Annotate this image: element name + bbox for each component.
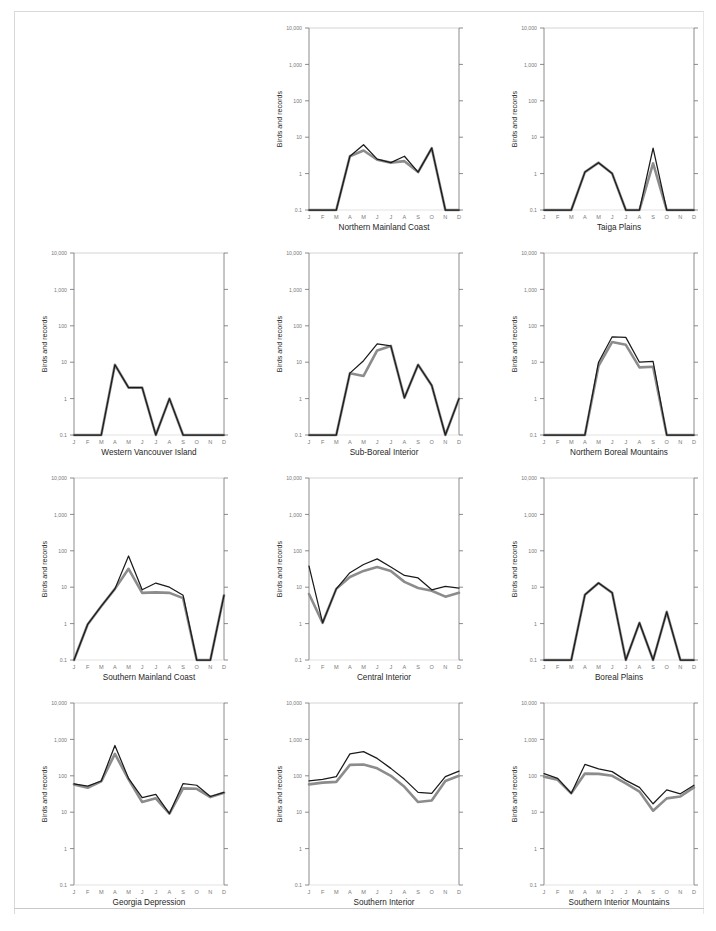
x-tick-label: F: [86, 889, 90, 895]
x-tick-label: O: [195, 664, 200, 670]
x-tick-label: J: [611, 214, 614, 220]
x-tick-label: N: [443, 439, 447, 445]
y-tick-label: 10,000: [521, 700, 537, 706]
panel-title: Sub-Boreal Interior: [350, 448, 419, 457]
x-tick-label: J: [543, 214, 546, 220]
x-tick-label: O: [195, 889, 200, 895]
series-line-records: [309, 145, 459, 210]
y-axis-label: Birds and records: [275, 315, 284, 372]
x-tick-label: F: [556, 439, 560, 445]
panel-southern-interior: 10,0001,0001001010.1JFMAMJJASONDBirds an…: [247, 689, 482, 914]
y-axis-label: Birds and records: [40, 765, 49, 822]
x-tick-label: J: [611, 889, 614, 895]
x-tick-label: A: [583, 664, 587, 670]
y-tick-label: 0.1: [530, 207, 537, 213]
y-tick-label: 0.1: [295, 432, 302, 438]
y-tick-label: 10: [61, 809, 67, 815]
x-tick-label: D: [222, 889, 226, 895]
chart-northern-boreal-mountains: 10,0001,0001001010.1JFMAMJJASONDBirds an…: [482, 239, 716, 464]
x-tick-label: J: [141, 664, 144, 670]
x-tick-label: A: [638, 889, 642, 895]
chart-taiga-plains: 10,0001,0001001010.1JFMAMJJASONDBirds an…: [482, 14, 716, 239]
x-tick-label: M: [334, 664, 339, 670]
y-tick-label: 0.1: [530, 432, 537, 438]
chart-sub-boreal-interior: 10,0001,0001001010.1JFMAMJJASONDBirds an…: [247, 239, 482, 464]
series-line-birds: [544, 163, 694, 210]
x-tick-label: D: [692, 664, 696, 670]
y-tick-label: 10: [61, 584, 67, 590]
x-tick-label: J: [154, 889, 157, 895]
x-tick-label: M: [126, 439, 131, 445]
x-tick-label: M: [569, 664, 574, 670]
y-tick-label: 1,000: [524, 512, 537, 518]
y-tick-label: 1,000: [289, 287, 302, 293]
x-tick-label: D: [222, 439, 226, 445]
x-tick-label: M: [361, 439, 366, 445]
chart-georgia-depression: 10,0001,0001001010.1JFMAMJJASONDBirds an…: [12, 689, 247, 914]
x-tick-label: N: [678, 889, 682, 895]
x-tick-label: J: [611, 439, 614, 445]
x-tick-label: A: [113, 664, 117, 670]
panel-northern-mainland-coast: 10,0001,0001001010.1JFMAMJJASONDBirds an…: [247, 14, 482, 239]
x-tick-label: O: [665, 889, 670, 895]
y-tick-label: 10,000: [286, 250, 302, 256]
x-tick-label: J: [308, 214, 311, 220]
y-tick-label: 10,000: [286, 25, 302, 31]
y-tick-label: 1,000: [54, 737, 67, 743]
x-tick-label: D: [457, 664, 461, 670]
x-tick-label: D: [457, 439, 461, 445]
y-tick-label: 1: [299, 171, 302, 177]
y-tick-label: 10,000: [521, 250, 537, 256]
y-tick-label: 10,000: [286, 475, 302, 481]
chart-southern-interior-mountains: 10,0001,0001001010.1JFMAMJJASONDBirds an…: [482, 689, 716, 914]
x-tick-label: M: [569, 889, 574, 895]
y-axis-label: Birds and records: [510, 315, 519, 372]
x-tick-label: A: [348, 664, 352, 670]
x-tick-label: J: [611, 664, 614, 670]
x-tick-label: J: [624, 664, 627, 670]
x-tick-label: A: [403, 214, 407, 220]
x-tick-label: A: [348, 439, 352, 445]
x-tick-label: M: [126, 889, 131, 895]
y-tick-label: 10,000: [521, 475, 537, 481]
y-axis-label: Birds and records: [275, 90, 284, 147]
panel-title: Boreal Plains: [595, 673, 643, 682]
chart-central-interior: 10,0001,0001001010.1JFMAMJJASONDBirds an…: [247, 464, 482, 689]
y-axis-label: Birds and records: [275, 765, 284, 822]
x-tick-label: S: [416, 439, 420, 445]
x-tick-label: A: [168, 439, 172, 445]
x-tick-label: J: [154, 664, 157, 670]
x-tick-label: J: [624, 889, 627, 895]
x-tick-label: F: [556, 664, 560, 670]
chart-southern-mainland-coast: 10,0001,0001001010.1JFMAMJJASONDBirds an…: [12, 464, 247, 689]
x-tick-label: F: [86, 439, 90, 445]
x-tick-label: J: [543, 664, 546, 670]
x-tick-label: M: [596, 214, 601, 220]
y-tick-label: 100: [528, 548, 537, 554]
x-tick-label: J: [308, 889, 311, 895]
x-tick-label: A: [583, 889, 587, 895]
x-tick-label: M: [334, 214, 339, 220]
x-tick-label: S: [416, 889, 420, 895]
x-tick-label: D: [457, 214, 461, 220]
series-line-birds: [309, 567, 459, 623]
x-tick-label: J: [389, 664, 392, 670]
figure-page: 10,0001,0001001010.1JFMAMJJASONDBirds an…: [0, 0, 716, 931]
panel-sub-boreal-interior: 10,0001,0001001010.1JFMAMJJASONDBirds an…: [247, 239, 482, 464]
panel-title: Central Interior: [357, 673, 411, 682]
y-tick-label: 10: [531, 809, 537, 815]
y-tick-label: 0.1: [295, 207, 302, 213]
x-tick-label: J: [389, 439, 392, 445]
panel-title: Southern Interior Mountains: [568, 898, 669, 907]
x-tick-label: J: [73, 439, 76, 445]
y-tick-label: 10,000: [51, 475, 67, 481]
y-tick-label: 10: [296, 809, 302, 815]
y-tick-label: 10: [531, 584, 537, 590]
x-tick-label: A: [113, 889, 117, 895]
panel-southern-interior-mountains: 10,0001,0001001010.1JFMAMJJASONDBirds an…: [482, 689, 716, 914]
footer-divider: [14, 908, 704, 909]
x-tick-label: M: [99, 664, 104, 670]
x-tick-label: J: [73, 889, 76, 895]
y-tick-label: 100: [58, 323, 67, 329]
y-tick-label: 1,000: [289, 737, 302, 743]
